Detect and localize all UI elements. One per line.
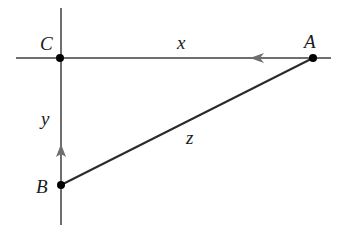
point-c (56, 54, 64, 62)
point-a (309, 54, 317, 62)
hypotenuse-line (61, 58, 313, 185)
label-a: A (302, 31, 316, 52)
triangle-diagram: C A B x y z (0, 0, 357, 235)
label-y: y (39, 108, 50, 129)
label-b: B (36, 176, 48, 197)
label-x: x (176, 32, 186, 53)
label-c: C (40, 33, 53, 54)
label-z: z (185, 127, 194, 148)
point-b (57, 181, 65, 189)
